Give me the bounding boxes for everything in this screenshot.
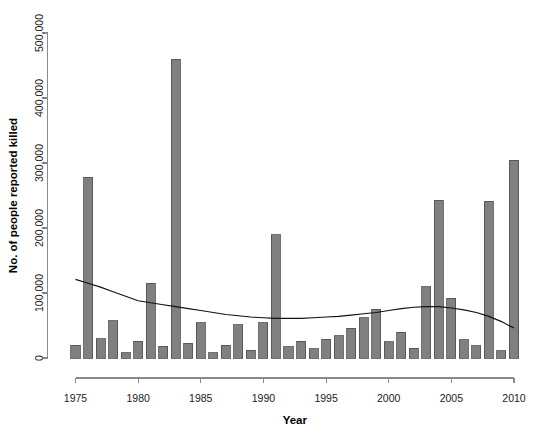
bars-group (71, 59, 519, 358)
bar-1977 (96, 339, 105, 359)
bar-2008 (484, 201, 493, 358)
x-axis-title: Year (283, 414, 308, 426)
bar-1981 (146, 283, 155, 358)
bar-1997 (347, 328, 356, 358)
bar-1996 (334, 336, 343, 358)
bar-1992 (284, 347, 293, 358)
x-tick-label-1975: 1975 (64, 392, 88, 404)
y-axis-title: No. of people reported killed (7, 118, 19, 273)
bar-1988 (234, 325, 243, 358)
bar-2007 (472, 346, 481, 358)
x-tick-label-1995: 1995 (314, 392, 338, 404)
bar-2003 (422, 287, 431, 359)
bar-1990 (259, 323, 268, 358)
bar-1991 (271, 235, 280, 359)
bar-1987 (221, 345, 230, 358)
bar-1986 (209, 353, 218, 358)
bar-1984 (184, 343, 193, 358)
bar-1993 (297, 341, 306, 358)
bar-1994 (309, 349, 318, 358)
bar-1998 (359, 318, 368, 358)
y-tick-label-100000: 100,000 (33, 274, 45, 312)
x-tick-label-2010: 2010 (502, 392, 526, 404)
bar-1995 (322, 339, 331, 358)
y-tick-label-400000: 400,000 (33, 79, 45, 117)
bar-1980 (134, 341, 143, 358)
bar-1976 (84, 177, 93, 358)
bar-1975 (71, 345, 80, 358)
x-tick-label-2005: 2005 (440, 392, 464, 404)
y-tick-label-200000: 200,000 (33, 209, 45, 247)
bar-2002 (409, 348, 418, 358)
bar-1979 (121, 353, 130, 358)
bar-2009 (497, 351, 506, 358)
y-tick-label-300000: 300,000 (33, 144, 45, 182)
x-tick-label-2000: 2000 (377, 392, 401, 404)
bar-2001 (397, 332, 406, 358)
bar-1982 (159, 346, 168, 358)
bar-2000 (384, 342, 393, 358)
bar-1999 (372, 309, 381, 358)
bar-1985 (196, 323, 205, 358)
bar-2006 (459, 340, 468, 358)
bar-2010 (509, 160, 518, 358)
bar-1983 (171, 59, 180, 358)
y-tick-label-500000: 500,000 (33, 14, 45, 52)
y-tick-label-0: 0 (33, 355, 45, 361)
bar-chart-plot: 0100,000200,000300,000400,000500,0001975… (0, 0, 547, 433)
chart-figure: 0100,000200,000300,000400,000500,0001975… (0, 0, 547, 433)
bar-2004 (434, 200, 443, 358)
bar-1989 (246, 350, 255, 358)
bar-1978 (109, 321, 118, 358)
x-tick-label-1980: 1980 (126, 392, 150, 404)
x-tick-label-1985: 1985 (189, 392, 213, 404)
x-tick-label-1990: 1990 (252, 392, 276, 404)
